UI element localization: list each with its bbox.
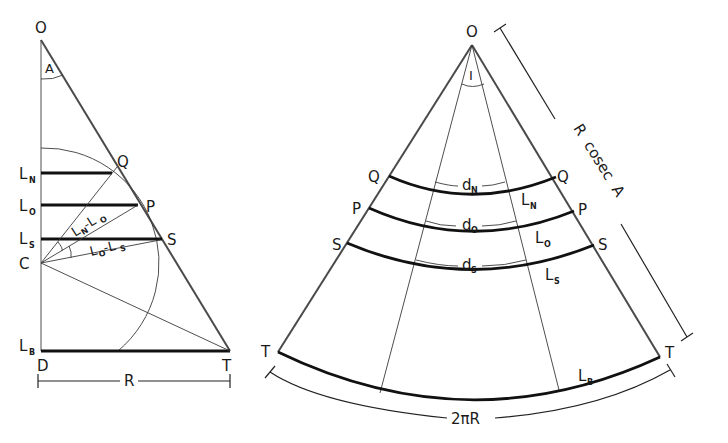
- svg-text:L: L: [535, 229, 544, 247]
- svg-text:S: S: [471, 266, 477, 275]
- left-panel: O A Q P S C D T R L N L O L S L B L N -L…: [19, 19, 232, 390]
- chord-do-left: [426, 221, 456, 226]
- fan-right-label-t: T: [664, 344, 675, 362]
- fan-left-label-s: S: [332, 236, 342, 254]
- right-panel: R cosec A 2πR O I Q P S T Q P S T L N L …: [260, 23, 693, 428]
- svg-text:L: L: [19, 165, 28, 183]
- apex-label-o: O: [35, 19, 47, 37]
- angle-i-arc: [462, 84, 484, 87]
- map-projection-diagram: O A Q P S C D T R L N L O L S L B L N -L…: [0, 0, 728, 443]
- chord-do-right: [482, 221, 516, 226]
- svg-text:O: O: [471, 226, 478, 235]
- chord-dn-left: [435, 182, 458, 186]
- arc-dimension-tick-left: [265, 366, 275, 378]
- fan-angle-label-i: I: [469, 68, 473, 83]
- level-label-ln: L N: [19, 165, 36, 185]
- svg-text:S: S: [554, 277, 560, 286]
- slant-dimension-label: R cosec A: [570, 121, 629, 201]
- slant-dimension-tick-bottom: [681, 333, 693, 341]
- fan-left-label-q: Q: [368, 168, 380, 186]
- svg-text:N: N: [530, 202, 537, 211]
- fan-right-label-p: P: [578, 201, 587, 219]
- svg-text:L: L: [521, 191, 530, 209]
- chord-dn-right: [482, 182, 505, 186]
- foot-label-d: D: [37, 357, 49, 375]
- center-label-c: C: [19, 255, 29, 273]
- arc-lb: [278, 352, 660, 400]
- fan-left-label-t: T: [260, 343, 271, 361]
- fan-arc-label-ls: L S: [545, 266, 560, 286]
- fan-arc-label-ln: L N: [521, 191, 537, 211]
- arc-dimension-label: 2πR: [451, 410, 480, 428]
- fan-edge-left: [278, 45, 472, 352]
- svg-text:L: L: [578, 367, 587, 385]
- fan-right-label-q: Q: [557, 168, 569, 186]
- fan-apex-label-o: O: [466, 23, 478, 41]
- fan-right-label-s: S: [598, 236, 608, 254]
- svg-text:L: L: [19, 337, 28, 355]
- svg-text:L: L: [545, 266, 554, 284]
- svg-text:N: N: [29, 176, 36, 185]
- chord-label-do: d O: [462, 216, 478, 235]
- svg-text:N: N: [471, 186, 478, 195]
- point-label-p: P: [146, 198, 155, 216]
- svg-text:S: S: [29, 241, 35, 250]
- angle-label-a: A: [45, 61, 54, 76]
- svg-text:S: S: [119, 243, 127, 253]
- svg-text:B: B: [29, 348, 35, 357]
- svg-text:O: O: [544, 240, 551, 249]
- fan-arc-label-lo: L O: [535, 229, 551, 249]
- ray-c-t: [41, 263, 230, 351]
- angle-arc-ln-lo: [58, 242, 62, 251]
- fan-inner-line-right: [472, 45, 559, 390]
- fan-left-label-p: P: [352, 200, 361, 218]
- chord-label-ds: d S: [462, 256, 477, 275]
- angle-annotation-ln-minus-lo: L N -L O: [69, 207, 109, 241]
- svg-text:-L: -L: [102, 238, 118, 256]
- tip-label-t: T: [221, 357, 232, 375]
- point-label-s: S: [167, 231, 177, 249]
- level-label-lb: L B: [19, 337, 35, 357]
- slant-dimension-tick-top: [494, 24, 506, 32]
- fan-edge-right: [472, 45, 660, 357]
- chord-label-dn: d N: [462, 176, 478, 195]
- slant-dimension-bottom: [621, 224, 687, 337]
- angle-arc-lo-ls: [69, 246, 71, 258]
- hypotenuse-ot: [41, 40, 230, 351]
- level-label-ls: L S: [19, 230, 35, 250]
- svg-text:L: L: [19, 230, 28, 248]
- fan-arc-label-lb: L B: [578, 367, 593, 387]
- point-label-q: Q: [117, 153, 129, 171]
- svg-text:L: L: [19, 197, 28, 215]
- svg-text:B: B: [587, 378, 593, 387]
- svg-text:R cosec A: R cosec A: [570, 121, 629, 201]
- svg-text:O: O: [29, 208, 36, 217]
- level-label-lo: L O: [19, 197, 36, 217]
- r-dimension-label: R: [124, 372, 134, 390]
